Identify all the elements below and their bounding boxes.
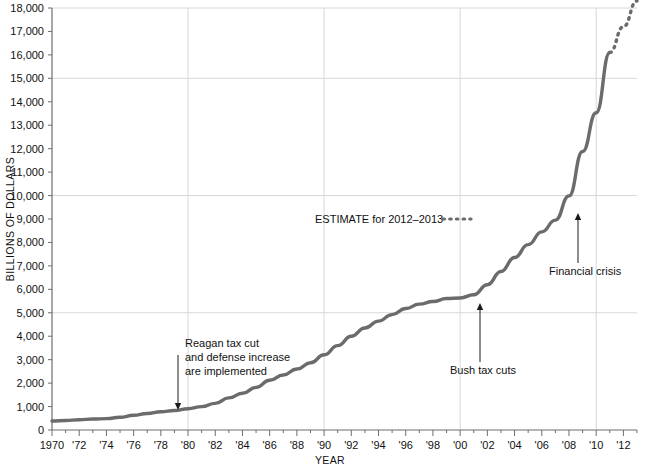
- x-tick-label: '86: [263, 439, 277, 451]
- x-tick-label: '84: [235, 439, 249, 451]
- x-tick-label: '02: [480, 439, 494, 451]
- annotation-text-line: and defense increase: [185, 351, 290, 363]
- x-tick-label: '96: [399, 439, 413, 451]
- y-tick-label: 17,000: [10, 25, 44, 37]
- y-tick-label: 6,000: [16, 283, 44, 295]
- annotation-text-line: Financial crisis: [549, 265, 622, 277]
- y-tick-label: 15,000: [10, 72, 44, 84]
- x-axis-ticks: [52, 430, 637, 436]
- x-tick-label: '98: [426, 439, 440, 451]
- x-axis-tick-labels: 1970'72'74'76'78'80'82'84'86'88'90'92'94…: [40, 439, 631, 451]
- y-tick-label: 12,000: [10, 143, 44, 155]
- x-tick-label: '10: [589, 439, 603, 451]
- chart-canvas: 01,0002,0003,0004,0005,0006,0007,0008,00…: [0, 0, 645, 468]
- x-tick-label: '72: [72, 439, 86, 451]
- y-tick-label: 13,000: [10, 119, 44, 131]
- y-tick-label: 1,000: [16, 401, 44, 413]
- x-tick-label: '00: [453, 439, 467, 451]
- x-tick-label: '04: [507, 439, 521, 451]
- x-tick-label: '06: [535, 439, 549, 451]
- x-tick-label: '88: [290, 439, 304, 451]
- annotation-text-line: are implemented: [185, 365, 267, 377]
- x-tick-label: '94: [371, 439, 385, 451]
- y-tick-label: 7,000: [16, 260, 44, 272]
- y-tick-label: 0: [38, 424, 44, 436]
- x-tick-label: '08: [562, 439, 576, 451]
- annotation-text-line: Reagan tax cut: [185, 337, 259, 349]
- y-tick-label: 11,000: [11, 166, 44, 178]
- x-tick-label: '92: [344, 439, 358, 451]
- x-tick-label: '76: [126, 439, 140, 451]
- y-axis-title: BILLIONS OF DOLLARS: [4, 157, 16, 281]
- y-tick-label: 8,000: [16, 236, 44, 248]
- y-tick-label: 9,000: [16, 213, 44, 225]
- x-tick-label: 1970: [40, 439, 64, 451]
- y-tick-label: 16,000: [10, 49, 44, 61]
- y-tick-label: 5,000: [16, 307, 44, 319]
- annotation-text-line: Bush tax cuts: [450, 364, 517, 376]
- x-axis-title: YEAR: [315, 454, 345, 466]
- x-tick-label: '74: [99, 439, 113, 451]
- x-tick-label: '12: [616, 439, 630, 451]
- y-tick-label: 3,000: [16, 354, 44, 366]
- y-tick-label: 2,000: [16, 377, 44, 389]
- x-tick-label: '82: [208, 439, 222, 451]
- y-tick-label: 18,000: [10, 2, 44, 14]
- y-tick-label: 4,000: [16, 330, 44, 342]
- x-tick-label: '90: [317, 439, 331, 451]
- legend-label: ESTIMATE for 2012–2013: [315, 213, 443, 225]
- x-tick-label: '78: [154, 439, 168, 451]
- x-tick-label: '80: [181, 439, 195, 451]
- y-tick-label: 14,000: [10, 96, 44, 108]
- national-debt-chart: 01,0002,0003,0004,0005,0006,0007,0008,00…: [0, 0, 645, 468]
